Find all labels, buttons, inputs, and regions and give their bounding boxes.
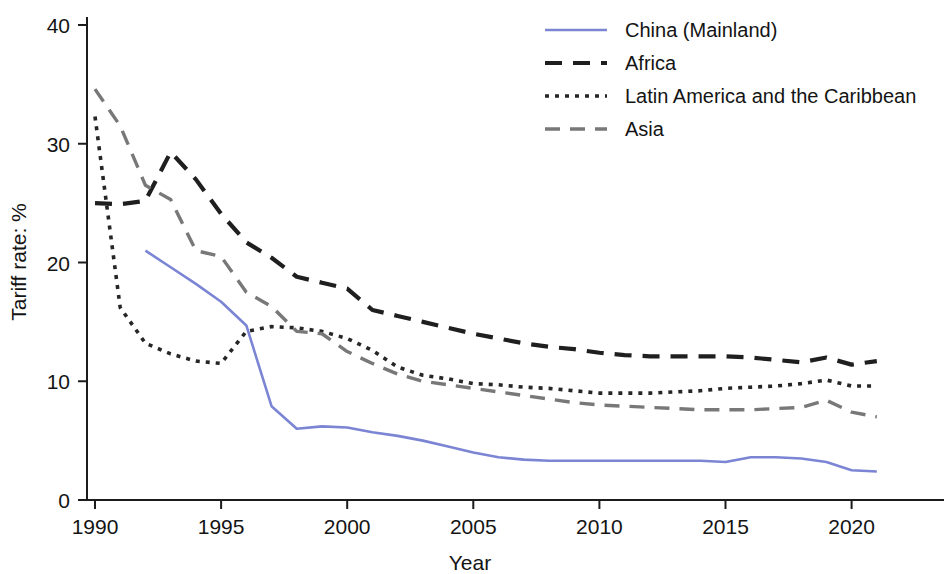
x-axis-tick-label: 1995 <box>198 515 245 538</box>
chart-canvas: 0102030401990199520002005201020152020 Ch… <box>0 0 944 574</box>
series-line <box>95 89 877 417</box>
y-axis-title: Tariff rate: % <box>7 203 30 321</box>
legend-label: China (Mainland) <box>625 19 777 41</box>
x-axis-tick-label: 2010 <box>576 515 623 538</box>
x-axis-tick-label: 2015 <box>702 515 749 538</box>
x-axis-tick-label: 1990 <box>72 515 119 538</box>
x-axis-tick-label: 2000 <box>324 515 371 538</box>
y-axis-tick-label: 30 <box>47 133 70 156</box>
y-axis-tick-label: 0 <box>58 489 70 512</box>
legend-label: Africa <box>625 52 677 74</box>
y-axis-tick-label: 20 <box>47 252 70 275</box>
tariff-rate-line-chart: 0102030401990199520002005201020152020 Ch… <box>0 0 944 574</box>
series-line <box>95 152 877 365</box>
x-axis-tick-label: 2020 <box>828 515 875 538</box>
x-axis-tick-label: 2005 <box>450 515 497 538</box>
y-axis-tick-label: 10 <box>47 370 70 393</box>
x-axis-title: Year <box>449 551 491 574</box>
chart-legend: China (Mainland)AfricaLatin America and … <box>545 19 916 140</box>
legend-label: Latin America and the Caribbean <box>625 85 916 107</box>
y-axis-tick-label: 40 <box>47 14 70 37</box>
legend-label: Asia <box>625 118 665 140</box>
series-lines <box>95 89 877 471</box>
